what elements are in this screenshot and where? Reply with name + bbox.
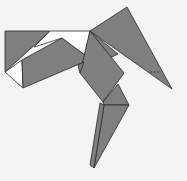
pieces-group — [5, 7, 172, 168]
figure-canvas — [0, 0, 187, 181]
tangram-figure — [0, 0, 187, 181]
